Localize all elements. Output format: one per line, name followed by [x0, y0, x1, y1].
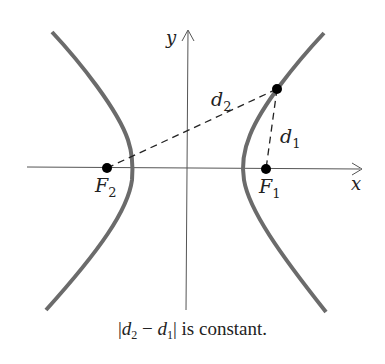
y-axis — [182, 30, 194, 310]
y-axis-label: y — [165, 27, 177, 48]
caption-d2: d — [122, 318, 132, 339]
hyperbola-right-branch — [243, 33, 326, 312]
d2-label: d2 — [211, 88, 231, 114]
focus-f2-point — [102, 163, 112, 173]
hyperbola-left-branch — [46, 32, 133, 310]
x-axis — [27, 163, 362, 175]
x-axis-label: x — [351, 173, 361, 194]
caption-d1: d — [157, 318, 167, 339]
hyperbola-point-p — [272, 84, 282, 94]
focus-f1-point — [261, 164, 271, 174]
d1-label: d1 — [280, 125, 300, 151]
hyperbola-diagram: y x d2 d1 F2 F1 — [0, 0, 385, 364]
figure-caption: |d2 − d1| is constant. — [0, 318, 385, 343]
focus-f2-label: F2 — [94, 174, 116, 200]
caption-text: is constant. — [177, 318, 267, 339]
focus-f1-label: F1 — [258, 175, 280, 201]
caption-minus: − — [137, 318, 157, 339]
